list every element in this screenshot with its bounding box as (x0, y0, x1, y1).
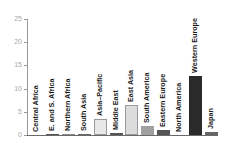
category-label: East Asia (127, 70, 135, 102)
category-label: Eastern Europe (159, 74, 167, 127)
category-label: South America (143, 72, 151, 122)
bar-south-america (141, 126, 154, 135)
bar-eastern-europe (157, 130, 170, 135)
bar-northern-africa (62, 134, 75, 136)
y-tick-mark (24, 19, 27, 20)
category-label: North America (175, 83, 183, 132)
y-tick-label: 0 (4, 131, 22, 138)
bar-e-and-s-africa (46, 134, 59, 136)
bar-asia-pacific (94, 119, 107, 135)
category-label: South Asia (80, 93, 88, 130)
x-axis-baseline (27, 135, 218, 136)
y-tick-mark (24, 42, 27, 43)
category-label: Japan (207, 108, 215, 129)
category-label: Central Africa (32, 85, 40, 132)
bar-middle-east (110, 133, 123, 135)
y-tick-mark (24, 112, 27, 113)
bar-south-asia (78, 134, 91, 136)
bar-japan (205, 132, 218, 135)
y-tick-label: 15 (4, 61, 22, 68)
category-label: Middle East (112, 90, 120, 130)
category-label: Northern Africa (64, 78, 72, 130)
bar-western-europe (189, 76, 202, 135)
y-tick-label: 20 (4, 38, 22, 45)
y-tick-mark (24, 135, 27, 136)
y-tick-label: 25 (4, 15, 22, 22)
category-label: Asia–Pacific (96, 74, 104, 116)
y-axis-line (27, 19, 28, 136)
y-tick-mark (24, 65, 27, 66)
category-label: E. and S. Africa (48, 78, 56, 130)
y-tick-label: 5 (4, 108, 22, 115)
bar-chart: 0510152025 Central AfricaE. and S. Afric… (0, 0, 239, 148)
y-tick-label: 10 (4, 85, 22, 92)
y-tick-mark (24, 89, 27, 90)
category-label: Western Europe (191, 18, 199, 73)
bar-east-asia (125, 105, 138, 135)
